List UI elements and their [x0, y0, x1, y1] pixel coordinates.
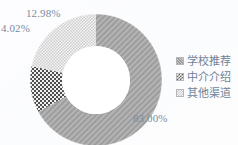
legend-item-other-channels[interactable]: 其他渠道	[176, 85, 236, 100]
legend-swatch-fine-checker-icon	[176, 89, 184, 97]
legend-swatch-hatch-icon	[176, 57, 184, 65]
data-label-other-channels: 4.02%	[1, 22, 30, 34]
legend-swatch-checker-icon	[176, 73, 184, 81]
chart-legend: 学校推荐 中介介绍 其他渠道	[176, 53, 236, 101]
legend-item-agency-referral[interactable]: 中介介绍	[176, 69, 236, 84]
data-label-agency-referral: 12.98%	[26, 7, 61, 19]
donut-graphic	[28, 12, 164, 145]
donut-hole	[62, 46, 130, 114]
donut-chart: 12.98% 4.02% 83.00% 学校推荐 中介介绍 其他渠道	[0, 0, 238, 145]
legend-label: 学校推荐	[187, 55, 231, 67]
legend-item-school-recommendation[interactable]: 学校推荐	[176, 53, 236, 68]
donut-svg	[28, 12, 164, 145]
data-label-school-recommendation: 83.00%	[133, 112, 168, 124]
legend-label: 中介介绍	[187, 71, 231, 83]
legend-label: 其他渠道	[187, 87, 231, 99]
